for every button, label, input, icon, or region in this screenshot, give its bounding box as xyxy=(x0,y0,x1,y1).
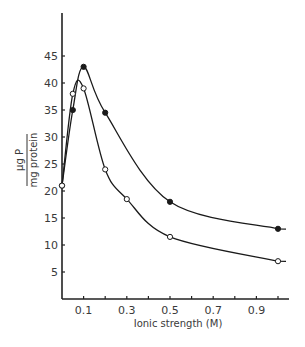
x-tick-label: 0.7 xyxy=(204,304,222,317)
x-axis-title: Ionic strength (M) xyxy=(134,318,223,329)
y-tick-label: 15 xyxy=(44,212,58,225)
y-tick-label: 40 xyxy=(44,77,58,90)
open-circle-marker xyxy=(70,91,75,96)
y-tick-label: 35 xyxy=(44,104,58,117)
y-tick-label: 45 xyxy=(44,50,58,63)
y-tick-label: 25 xyxy=(44,158,58,171)
open-circle-marker xyxy=(124,197,129,202)
open-circle-marker xyxy=(167,234,172,239)
y-tick-label: 20 xyxy=(44,185,58,198)
filled-circle-marker xyxy=(103,110,108,115)
y-tick-label: 5 xyxy=(51,266,58,279)
filled-circle-marker xyxy=(81,64,86,69)
y-tick-label: 10 xyxy=(44,239,58,252)
axes: 510152025303540450.10.30.50.70.9 xyxy=(44,13,289,317)
open-circle-marker xyxy=(103,167,108,172)
open-circle-marker xyxy=(275,259,280,264)
y-axis-title: µg P mg protein xyxy=(14,133,39,188)
x-tick-label: 0.9 xyxy=(248,304,266,317)
open-circle-marker xyxy=(59,183,64,188)
series-curve xyxy=(62,67,286,229)
x-tick-label: 0.5 xyxy=(161,304,179,317)
data-curves xyxy=(62,67,286,262)
chart-container: 510152025303540450.10.30.50.70.9 µg P mg… xyxy=(0,0,305,347)
filled-circle-marker xyxy=(70,107,75,112)
filled-circle-marker xyxy=(275,226,280,231)
series-curve xyxy=(62,80,286,261)
y-axis-title-denominator: mg protein xyxy=(28,133,39,188)
filled-circle-marker xyxy=(167,199,172,204)
x-tick-label: 0.3 xyxy=(118,304,136,317)
y-tick-label: 30 xyxy=(44,131,58,144)
open-circle-marker xyxy=(81,86,86,91)
y-axis-title-numerator: µg P xyxy=(14,149,25,171)
x-tick-label: 0.1 xyxy=(75,304,93,317)
line-chart: 510152025303540450.10.30.50.70.9 µg P mg… xyxy=(0,0,305,347)
data-markers xyxy=(59,64,280,264)
